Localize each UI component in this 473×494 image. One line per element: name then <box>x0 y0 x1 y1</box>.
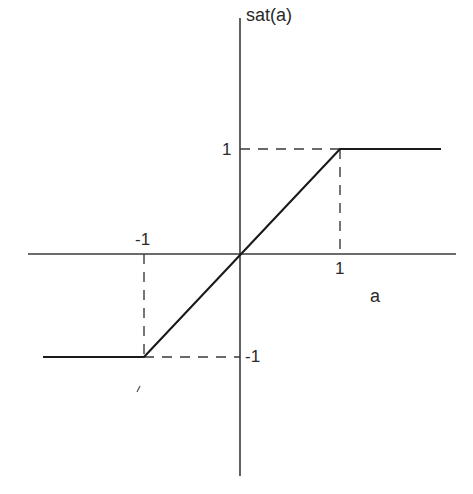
stray-mark <box>137 386 140 392</box>
y-axis-label: sat(a) <box>246 6 292 24</box>
saturation-curve <box>43 149 441 357</box>
x-tick-positive: 1 <box>335 260 344 277</box>
y-tick-positive: 1 <box>222 141 231 158</box>
diagram-canvas <box>0 0 473 494</box>
y-tick-negative: -1 <box>245 348 260 365</box>
saturation-diagram: sat(a) 1 -1 -1 1 a <box>0 0 473 494</box>
x-tick-negative: -1 <box>135 231 150 248</box>
x-axis-label: a <box>370 287 380 305</box>
